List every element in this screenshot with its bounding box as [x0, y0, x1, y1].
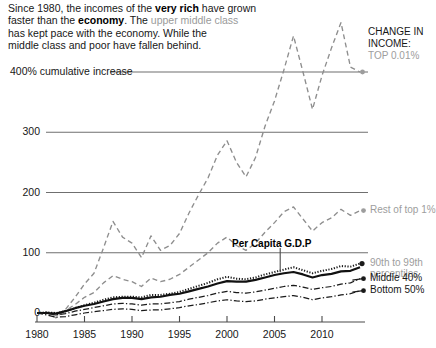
x-axis-label-1985: 1985 — [65, 328, 105, 340]
x-axis-label-2010: 2010 — [302, 328, 342, 340]
y-axis-label-100: 100 — [6, 246, 40, 258]
series-label-rest-of-top-1pct: Rest of top 1% — [370, 204, 436, 216]
series-line-bottom-50 — [37, 291, 360, 318]
series-endpoint-rest-of-top-1pct — [361, 208, 366, 213]
leader-middle-40pct — [352, 279, 363, 281]
series-label-middle-40pct: Middle 40% — [370, 272, 422, 284]
x-axis-label-2005: 2005 — [255, 328, 295, 340]
y-axis-label-0: 0 — [6, 306, 40, 318]
series-endpoint-90th-to-99th — [359, 261, 364, 266]
y-axis-label-400: 400% cumulative increase — [10, 65, 133, 77]
series-endpoint-top-0-01pct — [360, 70, 365, 75]
annotation-per-capita-gdp: Per Capita G.D.P — [232, 238, 311, 249]
x-axis-label-2000: 2000 — [207, 328, 247, 340]
x-axis-label-1990: 1990 — [112, 328, 152, 340]
series-label-90th-line1: 90th to 99th — [370, 257, 423, 268]
y-axis-label-200: 200 — [6, 186, 40, 198]
series-line-per-capita-g-d-p — [37, 267, 360, 313]
x-axis-label-1995: 1995 — [160, 328, 200, 340]
series-label-bottom-50pct: Bottom 50% — [370, 284, 424, 296]
y-axis-label-300: 300 — [6, 125, 40, 137]
x-axis-label-1980: 1980 — [17, 328, 57, 340]
leader-bottom-50pct — [352, 291, 363, 293]
